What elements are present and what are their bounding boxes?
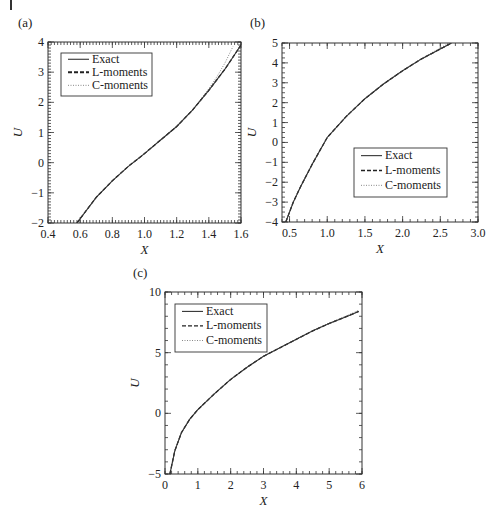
x-axis-label: X: [140, 242, 150, 257]
y-tick-label: −1: [265, 155, 278, 169]
y-tick-label: −1: [31, 186, 44, 200]
legend: ExactL-momentsC-moments: [175, 304, 267, 352]
x-tick-label: 1.4: [201, 227, 216, 241]
y-tick-label: 1: [272, 116, 278, 130]
x-tick-label: 0.5: [282, 226, 297, 240]
x-tick-label: 1.2: [169, 227, 184, 241]
x-tick-label: 2.5: [433, 226, 448, 240]
y-tick-label: 2: [272, 96, 278, 110]
x-tick-label: 6: [359, 478, 365, 492]
legend-entry: L-moments: [385, 163, 441, 177]
y-tick-label: 0: [272, 135, 278, 149]
legend: ExactL-momentsC-moments: [61, 52, 152, 96]
y-tick-label: −2: [265, 175, 278, 189]
x-tick-label: 2: [228, 478, 234, 492]
x-tick-label: 1.5: [357, 226, 372, 240]
x-tick-label: 1.0: [137, 227, 152, 241]
x-tick-label: 3.0: [471, 226, 486, 240]
legend-entry: C-moments: [92, 78, 148, 92]
y-axis-label: U: [10, 126, 25, 137]
x-axis-label: X: [375, 241, 385, 256]
x-tick-label: 4: [293, 478, 299, 492]
legend-entry: Exact: [385, 148, 413, 162]
legend-entry: L-moments: [92, 65, 148, 79]
x-tick-label: 1.0: [320, 226, 335, 240]
chart-panel-a: 0.40.60.81.01.21.41.6−2−101234XUExactL-m…: [10, 35, 249, 257]
x-tick-label: 0.6: [73, 227, 88, 241]
y-tick-label: 3: [272, 76, 278, 90]
y-tick-label: 0: [38, 156, 44, 170]
legend: ExactL-momentsC-moments: [354, 148, 447, 197]
legend-entry: C-moments: [385, 178, 441, 192]
chart-panel-c: 0123456−50510XUExactL-momentsC-moments: [127, 285, 365, 508]
y-tick-label: −3: [265, 195, 278, 209]
y-tick-label: 3: [38, 65, 44, 79]
x-tick-label: 3: [261, 478, 267, 492]
y-tick-label: −4: [265, 215, 278, 229]
x-tick-label: 0.8: [105, 227, 120, 241]
chart-panel-b: 0.51.01.52.02.53.0−4−3−2−1012345XUExactL…: [244, 36, 486, 256]
y-tick-label: 4: [38, 35, 44, 49]
y-tick-label: −2: [31, 216, 44, 230]
y-tick-label: 4: [272, 56, 278, 70]
y-tick-label: 5: [272, 36, 278, 50]
y-tick-label: 10: [149, 285, 161, 299]
x-tick-label: 1: [195, 478, 201, 492]
x-tick-label: 0: [162, 478, 168, 492]
figure-canvas: 0.40.60.81.01.21.41.6−2−101234XUExactL-m…: [0, 0, 502, 517]
x-tick-label: 2.0: [395, 226, 410, 240]
legend-entry: L-moments: [206, 318, 262, 332]
y-axis-label: U: [127, 377, 142, 388]
y-tick-label: 2: [38, 95, 44, 109]
y-tick-label: 1: [38, 126, 44, 140]
x-tick-label: 1.6: [234, 227, 249, 241]
y-tick-label: 5: [155, 346, 161, 360]
legend-entry: Exact: [92, 52, 120, 66]
legend-entry: C-moments: [206, 333, 262, 347]
y-tick-label: 0: [155, 406, 161, 420]
x-tick-label: 5: [326, 478, 332, 492]
y-tick-label: −5: [148, 467, 161, 481]
y-axis-label: U: [244, 126, 259, 137]
legend-entry: Exact: [206, 304, 234, 318]
x-axis-label: X: [259, 493, 269, 508]
